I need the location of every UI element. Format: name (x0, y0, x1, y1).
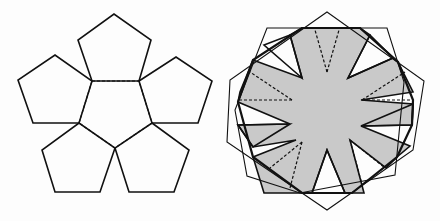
diagram-stage (0, 0, 440, 221)
shaded-star-figure (0, 0, 440, 221)
